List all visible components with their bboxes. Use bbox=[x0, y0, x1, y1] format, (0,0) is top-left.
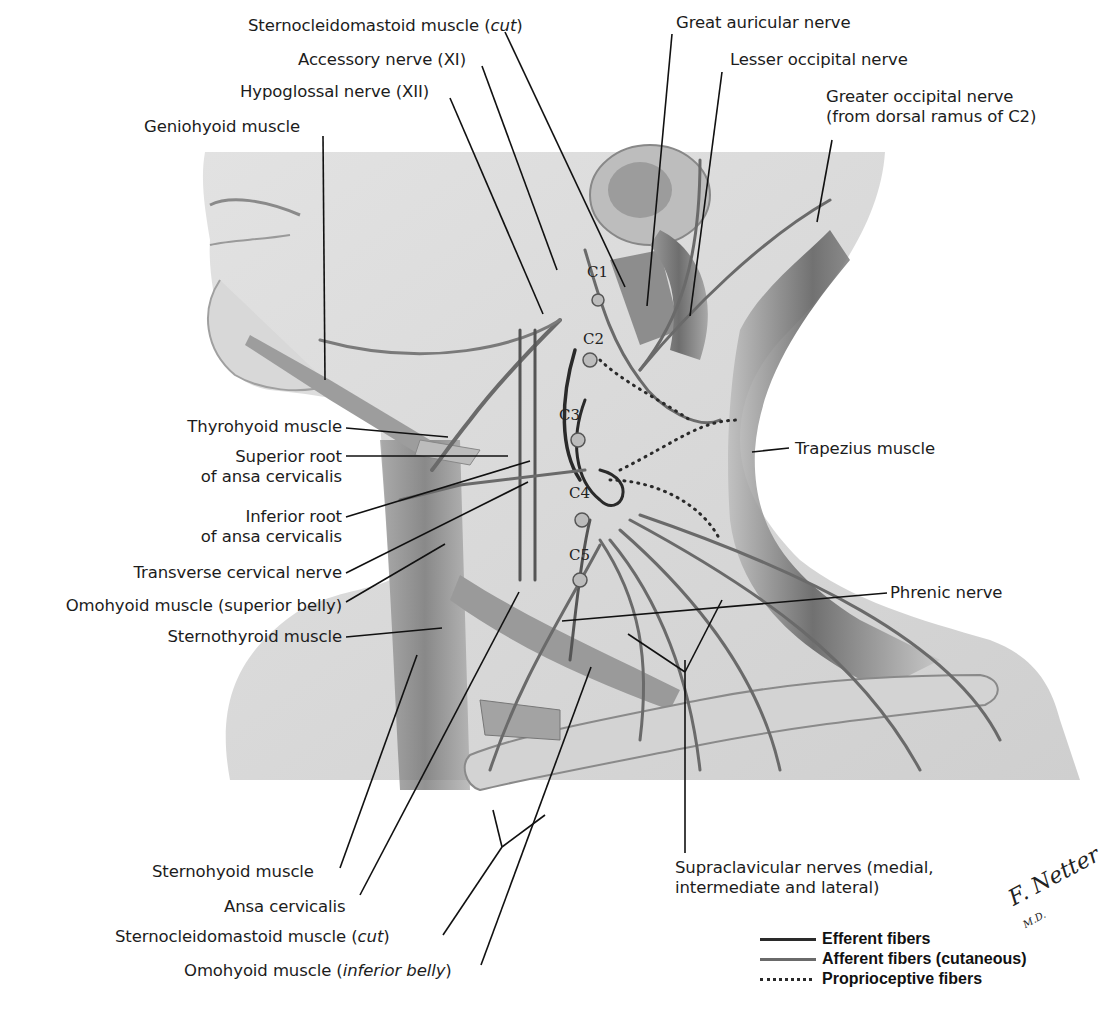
label-c4: C4 bbox=[569, 484, 590, 502]
legend-item-proprioceptive: Proprioceptive fibers bbox=[760, 969, 1026, 989]
label-transverse-cervical-nerve: Transverse cervical nerve bbox=[134, 563, 342, 583]
label-sternohyoid-muscle: Sternohyoid muscle bbox=[152, 862, 314, 882]
label-c2: C2 bbox=[583, 330, 604, 348]
label-hypoglossal-nerve: Hypoglossal nerve (XII) bbox=[240, 82, 429, 102]
label-accessory-nerve: Accessory nerve (XI) bbox=[298, 50, 466, 70]
legend-item-efferent: Efferent fibers bbox=[760, 929, 1026, 949]
label-superior-root-ansa: Superior rootof ansa cervicalis bbox=[201, 447, 342, 487]
label-c3: C3 bbox=[559, 406, 580, 424]
label-great-auricular-nerve: Great auricular nerve bbox=[676, 13, 851, 33]
label-lesser-occipital-nerve: Lesser occipital nerve bbox=[730, 50, 908, 70]
label-phrenic-nerve: Phrenic nerve bbox=[890, 583, 1002, 603]
label-omohyoid-superior-belly: Omohyoid muscle (superior belly) bbox=[66, 596, 342, 616]
dotted-line-icon bbox=[760, 978, 812, 981]
solid-gray-line-icon bbox=[760, 958, 816, 961]
label-omohyoid-inferior-belly: Omohyoid muscle (inferior belly) bbox=[184, 961, 452, 981]
legend-item-afferent: Afferent fibers (cutaneous) bbox=[760, 949, 1026, 969]
label-sternocleidomastoid-cut-bottom: Sternocleidomastoid muscle (cut) bbox=[115, 927, 390, 947]
label-supraclavicular-nerves: Supraclavicular nerves (medial,intermedi… bbox=[675, 858, 933, 898]
label-trapezius-muscle: Trapezius muscle bbox=[795, 439, 935, 459]
label-geniohyoid-muscle: Geniohyoid muscle bbox=[144, 117, 300, 137]
fiber-legend: Efferent fibers Afferent fibers (cutaneo… bbox=[760, 929, 1026, 989]
solid-line-icon bbox=[760, 938, 816, 941]
label-inferior-root-ansa: Inferior rootof ansa cervicalis bbox=[201, 507, 342, 547]
label-c1: C1 bbox=[587, 263, 608, 281]
label-sternocleidomastoid-cut-top: Sternocleidomastoid muscle (cut) bbox=[248, 16, 523, 36]
label-sternothyroid-muscle: Sternothyroid muscle bbox=[167, 627, 342, 647]
label-greater-occipital-nerve: Greater occipital nerve(from dorsal ramu… bbox=[826, 87, 1036, 127]
label-ansa-cervicalis: Ansa cervicalis bbox=[224, 897, 346, 917]
label-c5: C5 bbox=[569, 546, 590, 564]
label-thyrohyoid-muscle: Thyrohyoid muscle bbox=[187, 417, 342, 437]
